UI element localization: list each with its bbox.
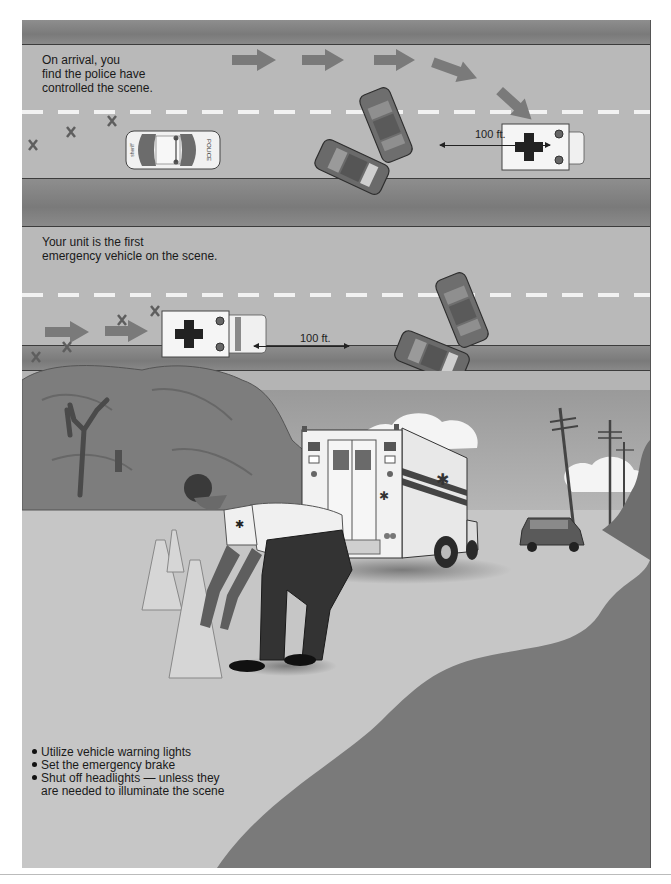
svg-text:✱: ✱ xyxy=(379,489,389,503)
ambulance-top-view-2 xyxy=(162,311,266,357)
svg-text:POLICE: POLICE xyxy=(206,139,212,161)
bushes xyxy=(22,366,322,510)
distance-label-2: 100 ft. xyxy=(300,332,331,344)
svg-text:sheriff: sheriff xyxy=(129,143,135,157)
page-divider xyxy=(0,874,671,875)
checklist-item: Shut off headlights — unless they are ne… xyxy=(32,772,232,798)
svg-text:✱: ✱ xyxy=(436,471,449,488)
distance-arrow xyxy=(440,145,550,146)
distance-label: 100 ft. xyxy=(475,128,506,140)
crashed-car-1 xyxy=(358,86,415,165)
distance-arrow-2 xyxy=(254,346,349,347)
traffic-arrows-icon: POLICE sheriff xyxy=(22,20,650,226)
safety-checklist: Utilize vehicle warning lights Set the e… xyxy=(32,746,232,798)
illustration-frame: On arrival, you find the police have con… xyxy=(22,20,651,868)
svg-text:✱: ✱ xyxy=(235,518,244,530)
ambulance-top-view xyxy=(502,124,584,170)
police-car: POLICE sheriff xyxy=(126,131,220,169)
panel2-vehicles xyxy=(22,227,650,371)
